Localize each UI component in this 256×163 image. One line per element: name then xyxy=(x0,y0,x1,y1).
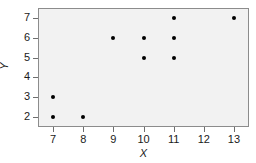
data-point xyxy=(142,56,146,60)
y-tick xyxy=(33,58,38,59)
data-point xyxy=(172,56,176,60)
x-tick-label: 7 xyxy=(41,133,65,145)
x-tick-label: 8 xyxy=(71,133,95,145)
y-tick xyxy=(33,117,38,118)
x-tick-label: 10 xyxy=(132,133,156,145)
x-tick xyxy=(83,127,84,132)
data-point xyxy=(142,36,146,40)
y-tick-label: 3 xyxy=(8,90,30,103)
y-tick-label: 6 xyxy=(8,31,30,44)
x-tick-label: 11 xyxy=(162,133,186,145)
y-tick-label: 5 xyxy=(8,51,30,64)
y-tick xyxy=(33,97,38,98)
x-tick xyxy=(53,127,54,132)
y-tick xyxy=(33,38,38,39)
y-tick-label: 2 xyxy=(8,110,30,123)
x-tick xyxy=(204,127,205,132)
y-tick xyxy=(33,77,38,78)
x-tick-label: 12 xyxy=(192,133,216,145)
y-tick xyxy=(33,18,38,19)
y-tick-label: 4 xyxy=(8,70,30,83)
scatter-plot: 78910111213 234567 X Y xyxy=(0,0,256,163)
x-tick xyxy=(174,127,175,132)
y-tick-label: 7 xyxy=(8,11,30,24)
x-tick-label: 9 xyxy=(101,133,125,145)
y-axis-title: Y xyxy=(0,54,10,78)
x-tick xyxy=(234,127,235,132)
x-tick xyxy=(113,127,114,132)
x-axis-title: X xyxy=(38,147,249,159)
plot-panel xyxy=(38,8,249,127)
data-point xyxy=(232,16,236,20)
x-tick-label: 13 xyxy=(222,133,246,145)
data-point xyxy=(172,36,176,40)
data-point xyxy=(172,16,176,20)
x-tick xyxy=(144,127,145,132)
